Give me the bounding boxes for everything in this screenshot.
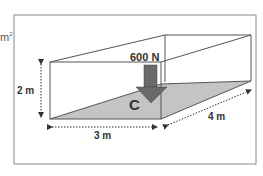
height-label: 2 m (17, 85, 34, 96)
depth-label: 4 m (208, 111, 225, 122)
box-diagram: 600 N C 2 m 3 m 4 m (0, 0, 263, 176)
point-c-label: C (129, 96, 140, 113)
force-label: 600 N (130, 51, 159, 63)
width-label: 3 m (94, 130, 111, 141)
